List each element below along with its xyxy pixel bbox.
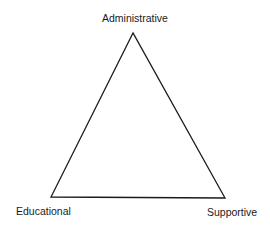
vertex-label-supportive: Supportive <box>207 206 257 218</box>
triangle-shape <box>0 0 270 228</box>
vertex-label-educational: Educational <box>16 205 71 217</box>
vertex-label-administrative: Administrative <box>102 12 168 24</box>
diagram-canvas: Administrative Educational Supportive <box>0 0 270 228</box>
